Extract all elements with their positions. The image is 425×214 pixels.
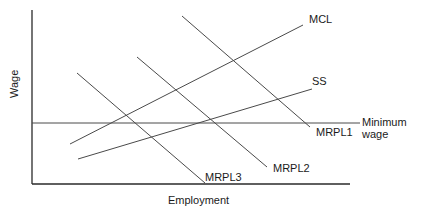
mrpl1-label: MRPL1 [316,127,353,138]
mrpl2-label: MRPL2 [273,163,310,174]
y-axis-label: Wage [8,70,20,98]
mcl-label: MCL [309,14,332,25]
x-axis-label: Employment [168,195,229,206]
mrpl3-curve [77,73,205,183]
ss-curve [78,89,312,159]
minimum-wage-label-line2: wage [362,129,388,140]
ss-label: SS [312,76,327,87]
mrpl2-curve [137,57,267,167]
mrpl1-curve [182,16,310,127]
minimum-wage-label-line1: Minimum [362,117,407,128]
mrpl3-label: MRPL3 [205,172,242,183]
